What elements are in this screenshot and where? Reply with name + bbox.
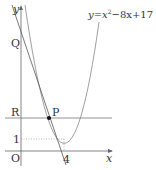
origin-label: O: [11, 152, 20, 165]
point-P: [47, 116, 51, 120]
one-label: 1: [13, 133, 20, 146]
diagram-canvas: y x O Q R P 1 4 y=x2−8x+17: [0, 0, 156, 170]
R-label: R: [11, 106, 20, 119]
P-label: P: [52, 106, 60, 119]
tangent-line: [12, 5, 66, 165]
y-axis-arrow-icon: [19, 5, 23, 10]
equation-label: y=x2−8x+17: [87, 8, 153, 20]
x-axis-label: x: [106, 152, 113, 165]
parabola-curve: [25, 5, 99, 143]
y-axis-label: y: [12, 3, 20, 16]
Q-label: Q: [11, 37, 20, 50]
four-label: 4: [63, 153, 70, 166]
